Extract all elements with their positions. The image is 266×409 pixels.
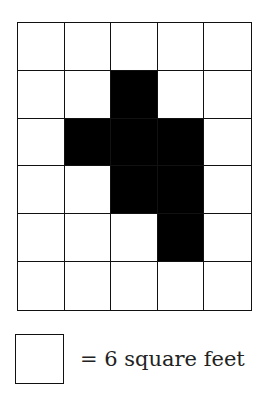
grid-cell xyxy=(204,166,251,214)
shaded-grid-cell xyxy=(158,166,205,214)
grid-cell xyxy=(204,262,251,310)
grid-cell xyxy=(65,23,112,71)
shaded-grid-cell xyxy=(158,214,205,262)
grid-cell xyxy=(111,262,158,310)
grid-cell xyxy=(65,262,112,310)
grid-cell xyxy=(204,119,251,167)
grid-cell xyxy=(18,262,65,310)
grid-cell xyxy=(18,166,65,214)
shaded-grid-cell xyxy=(111,119,158,167)
shaded-grid-cell xyxy=(65,119,112,167)
grid-cell xyxy=(204,214,251,262)
shaded-grid-cell xyxy=(111,166,158,214)
shaded-grid-cell xyxy=(158,119,205,167)
grid-cell xyxy=(158,262,205,310)
grid-cell xyxy=(204,23,251,71)
grid-cell xyxy=(111,214,158,262)
grid-cell xyxy=(158,71,205,119)
grid-cell xyxy=(18,71,65,119)
grid-cell xyxy=(158,23,205,71)
legend-label: = 6 square feet xyxy=(80,347,245,371)
grid-cell xyxy=(204,71,251,119)
grid-cell xyxy=(18,23,65,71)
grid-cell xyxy=(111,23,158,71)
area-grid xyxy=(17,22,252,311)
grid-cell xyxy=(65,166,112,214)
grid-cell xyxy=(18,119,65,167)
grid-cell xyxy=(65,214,112,262)
grid-cell xyxy=(65,71,112,119)
legend-unit-square xyxy=(15,334,64,384)
grid-cell xyxy=(18,214,65,262)
shaded-grid-cell xyxy=(111,71,158,119)
